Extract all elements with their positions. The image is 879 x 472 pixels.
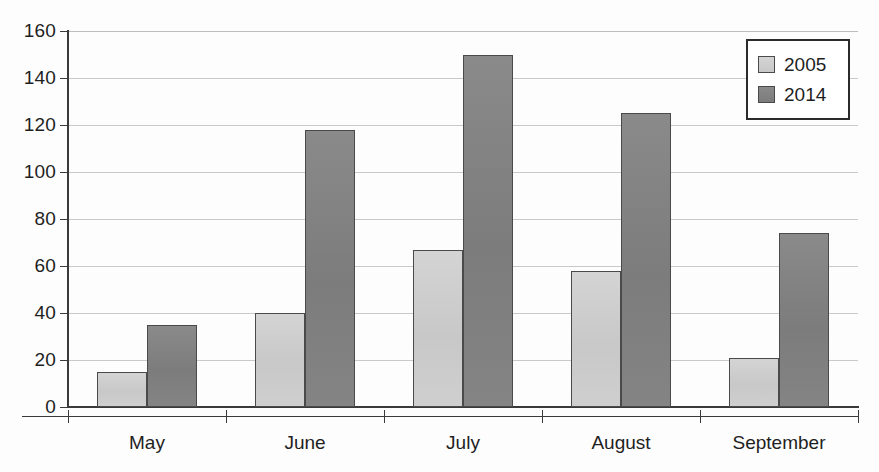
category-tick-0 — [68, 410, 69, 423]
category-tick-3 — [542, 410, 543, 423]
bar-june-2014 — [305, 130, 355, 407]
y-tick-label-60: 60 — [4, 256, 56, 275]
category-tick-1 — [226, 410, 227, 423]
bar-may-2014 — [147, 325, 197, 407]
category-label-may: May — [129, 432, 165, 454]
bar-june-2005 — [255, 313, 305, 407]
bar-september-2014 — [779, 233, 829, 407]
y-tick-label-100: 100 — [4, 162, 56, 181]
bar-may-2005 — [97, 372, 147, 407]
category-label-september: September — [733, 432, 826, 454]
y-tick-label-20: 20 — [4, 350, 56, 369]
y-tick-label-160: 160 — [4, 21, 56, 40]
y-tick-label-140: 140 — [4, 68, 56, 87]
plot-area — [68, 31, 858, 407]
bar-chart: 020406080100120140160 MayJuneJulyAugustS… — [0, 0, 879, 472]
category-tick-5 — [858, 410, 859, 423]
bar-july-2014 — [463, 55, 513, 408]
legend-label-2014: 2014 — [784, 85, 826, 104]
y-tick-label-80: 80 — [4, 209, 56, 228]
y-axis-labels: 020406080100120140160 — [0, 0, 56, 472]
category-axis-line — [22, 416, 859, 417]
bar-september-2005 — [729, 358, 779, 407]
category-label-august: August — [591, 432, 650, 454]
category-tick-2 — [384, 410, 385, 423]
legend-label-2005: 2005 — [784, 55, 826, 74]
bar-july-2005 — [413, 250, 463, 407]
y-tick-label-0: 0 — [4, 397, 56, 416]
legend-item-2005: 2005 — [758, 49, 848, 79]
category-label-july: July — [446, 432, 480, 454]
legend-item-2014: 2014 — [758, 79, 848, 109]
y-tick-label-120: 120 — [4, 115, 56, 134]
bar-august-2005 — [571, 271, 621, 407]
legend-swatch-2005-icon — [758, 56, 775, 73]
chart-legend: 2005 2014 — [746, 39, 850, 120]
legend-swatch-2014-icon — [758, 86, 775, 103]
category-tick-4 — [700, 410, 701, 423]
bar-august-2014 — [621, 113, 671, 407]
category-label-june: June — [284, 432, 325, 454]
y-tick-label-40: 40 — [4, 303, 56, 322]
